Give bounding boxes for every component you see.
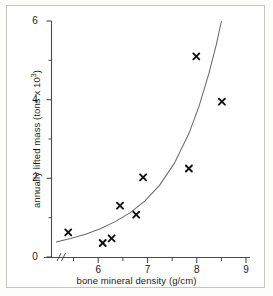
- y-axis-label-text: annually lifted mass (tons x 10: [31, 77, 42, 208]
- data-point-marker: [140, 174, 146, 180]
- data-point-marker: [100, 240, 106, 246]
- data-point-marker: [193, 53, 199, 59]
- y-axis-label: annually lifted mass (tons x 103): [30, 70, 42, 208]
- data-point-marker: [65, 229, 71, 235]
- data-point-marker: [117, 203, 123, 209]
- x-tick-label-9: 9: [239, 264, 253, 275]
- chart-page: 6 4 2 0 6 7 8 9 bone mineral density (g/…: [0, 0, 273, 296]
- y-axis-label-suffix: ): [31, 70, 42, 73]
- fit-curve: [56, 21, 222, 242]
- data-point-marker: [133, 212, 139, 218]
- y-axis-label-exponent: 3: [30, 73, 37, 77]
- y-axis-label-wrapper: annually lifted mass (tons x 103): [26, 19, 44, 259]
- data-point-marker: [186, 166, 192, 172]
- data-point-marker: [219, 99, 225, 105]
- data-point-marker: [109, 235, 115, 241]
- x-tick-label-7: 7: [141, 264, 155, 275]
- x-axis-label: bone mineral density (g/cm): [0, 275, 273, 286]
- x-tick-label-6: 6: [91, 264, 105, 275]
- data-points: [65, 53, 225, 246]
- x-tick-label-8: 8: [190, 264, 204, 275]
